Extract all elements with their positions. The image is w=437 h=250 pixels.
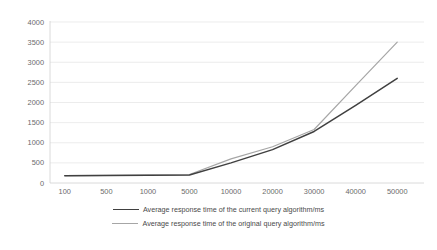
legend-swatch-original <box>112 223 138 224</box>
x-axis-tick-label: 10000 <box>221 187 242 196</box>
y-axis-tick-label: 3500 <box>28 38 44 47</box>
y-axis-tick-label: 500 <box>32 158 44 167</box>
legend-label-original: Average response time of the original qu… <box>142 219 324 228</box>
y-axis-tick-label: 1500 <box>28 118 44 127</box>
x-axis-tick-label: 100 <box>59 187 71 196</box>
legend-item-original[interactable]: Average response time of the original qu… <box>112 217 324 229</box>
legend-label-current: Average response time of the current que… <box>143 205 324 214</box>
x-axis-tick-label: 30000 <box>304 187 325 196</box>
chart-svg: 0500100015002000250030003500400010050010… <box>0 0 437 202</box>
x-axis-tick-label: 40000 <box>345 187 366 196</box>
chart-legend: Average response time of the current que… <box>0 203 437 247</box>
x-axis-tick-label: 50000 <box>387 187 408 196</box>
y-axis-tick-label: 4000 <box>28 18 44 27</box>
y-axis-tick-label: 0 <box>40 179 44 188</box>
x-axis-tick-label: 500 <box>100 187 112 196</box>
chart-container: 0500100015002000250030003500400010050010… <box>0 0 437 250</box>
legend-item-current[interactable]: Average response time of the current que… <box>113 203 324 215</box>
x-axis-tick-label: 5000 <box>181 187 197 196</box>
plot-area: 0500100015002000250030003500400010050010… <box>0 0 437 202</box>
y-axis-tick-label: 2000 <box>28 98 44 107</box>
x-axis-tick-label: 20000 <box>262 187 283 196</box>
y-axis-tick-label: 1000 <box>28 138 44 147</box>
series-line-current <box>65 78 397 175</box>
legend-swatch-current <box>113 209 139 210</box>
x-axis-tick-label: 1000 <box>140 187 156 196</box>
y-axis-tick-label: 3000 <box>28 58 44 67</box>
y-axis-tick-label: 2500 <box>28 78 44 87</box>
